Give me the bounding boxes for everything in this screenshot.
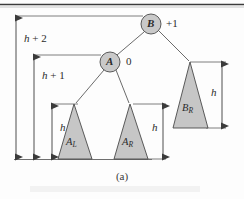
node-a-balance-factor: 0	[126, 56, 132, 67]
measure-label-h-middle: h	[152, 122, 158, 133]
triangle-b-right-label: BR	[182, 103, 193, 114]
measure-h-plus-2-rest: + 2	[30, 32, 47, 44]
measure-label-h-left: h	[60, 122, 66, 133]
edge-b-to-br	[159, 31, 189, 61]
triangle-a-right-subscript: R	[128, 140, 133, 149]
measure-label-h-right: h	[211, 87, 217, 98]
node-a-label: A	[106, 56, 113, 67]
edge-b-to-a	[117, 32, 144, 55]
scan-smudge	[30, 186, 200, 192]
node-b-balance-factor: +1	[166, 18, 178, 29]
measure-label-h-plus-2: h + 2	[24, 33, 47, 44]
edge-a-to-al	[76, 70, 104, 103]
triangle-a-left-subscript: L	[72, 140, 76, 149]
measure-label-h-plus-1: h + 1	[42, 70, 65, 81]
triangle-b-right-subscript: R	[188, 106, 193, 115]
triangle-a-right-label: AR	[122, 137, 133, 148]
tree-edges	[76, 31, 189, 103]
measure-h-plus-1-rest: + 1	[48, 69, 65, 81]
triangle-a-right	[114, 104, 148, 159]
triangle-a-left-label: AL	[66, 137, 77, 148]
triangle-b-right	[173, 62, 208, 128]
avl-rotation-figure: B +1 A 0 AL AR BR h + 2 h + 1 h h h (a)	[0, 0, 244, 199]
figure-caption: (a)	[0, 170, 244, 182]
node-b-label: B	[147, 18, 154, 29]
edge-a-to-ar	[116, 70, 129, 103]
